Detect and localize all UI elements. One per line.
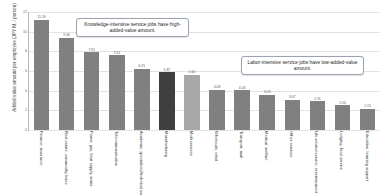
bar-value-label: 5.60: [189, 70, 196, 74]
bar-value-label: 11.19: [37, 15, 45, 19]
x-label-slot: Finance, insurance: [28, 131, 53, 195]
x-label-slot: Medical, welfare: [254, 131, 279, 195]
x-label-slot: Education, learning support: [354, 131, 379, 195]
x-label-slot: Power, gas, heat supply, water: [78, 131, 103, 195]
x-label-slot: Other services: [279, 131, 304, 195]
x-axis-category-label: Wholesale, retail: [214, 131, 218, 193]
x-label-slot: Lodging, food service: [329, 131, 354, 195]
x-label-slot: Transport, mail: [229, 131, 254, 195]
x-label-slot: Wholesale, retail: [204, 131, 229, 195]
bar[interactable]: 7.61: [109, 55, 125, 130]
y-axis-tick-label: 8: [25, 49, 27, 53]
bar-slot: 4.08: [205, 12, 230, 130]
bar[interactable]: 11.19: [34, 20, 50, 130]
bar-value-label: 3.07: [289, 95, 296, 99]
bar-value-label: 7.61: [113, 51, 120, 55]
x-label-slot: Academic, specialized/technical services: [128, 131, 153, 195]
x-axis-category-label: Telecommunication: [114, 131, 118, 193]
bar-value-label: 6.25: [139, 64, 146, 68]
x-label-slot: Manufacturing: [153, 131, 178, 195]
x-axis-category-label: Academic, specialized/technical services: [139, 131, 143, 193]
bar[interactable]: 9.40: [59, 38, 75, 130]
bar-value-label: 7.91: [88, 48, 95, 52]
bar-value-label: 4.08: [214, 85, 221, 89]
bar[interactable]: 6.25: [134, 69, 150, 130]
bar[interactable]: 5.60: [184, 75, 200, 130]
x-label-slot: Multi services: [178, 131, 203, 195]
bar[interactable]: 4.03: [234, 90, 250, 130]
bar[interactable]: 7.91: [84, 52, 100, 130]
y-axis-tick-label: 2: [25, 108, 27, 112]
x-axis-category-label: Education, learning support: [364, 131, 368, 193]
x-axis-category-label: Power, gas, heat supply, water: [88, 131, 92, 193]
bar-value-label: 3.59: [264, 90, 271, 94]
y-axis-tick-label: 4: [25, 89, 27, 93]
bar-slot: 11.19: [29, 12, 54, 130]
bar-value-label: 9.40: [63, 33, 70, 37]
x-axis-category-label: Manufacturing: [164, 131, 168, 193]
y-axis-tick-label: 6: [25, 69, 27, 73]
bar-value-label: 2.50: [339, 101, 346, 105]
x-axis-labels: Finance, insuranceReal estate, commodity…: [28, 131, 379, 195]
bar[interactable]: 3.59: [259, 95, 275, 130]
bar-value-label: 5.87: [164, 68, 171, 72]
x-label-slot: Telecommunication: [103, 131, 128, 195]
bar[interactable]: 5.87: [159, 72, 175, 130]
bar[interactable]: 3.07: [285, 100, 301, 130]
y-axis-title: Added-value amount per employee (JPY M. …: [12, 0, 17, 123]
callout-labor-intensive: Labor-intensive service jobs have low-ad…: [241, 56, 364, 75]
x-axis-category-label: Finance, insurance: [38, 131, 42, 193]
y-axis-tick-label: 10: [23, 30, 27, 34]
y-axis-tick-label: 12: [23, 10, 27, 14]
bar-value-label: 2.15: [364, 104, 371, 108]
x-axis-category-label: Transport, mail: [239, 131, 243, 193]
x-axis-category-label: Life-related service, entertainment: [314, 131, 318, 193]
callout-knowledge-intensive: Knowledge-intensive service jobs have hi…: [76, 18, 189, 37]
bar[interactable]: 2.50: [335, 105, 351, 130]
x-axis-category-label: Real estate, commodity lease: [63, 131, 67, 193]
bar-value-label: 2.91: [314, 97, 321, 101]
bar[interactable]: 2.91: [310, 101, 326, 130]
x-axis-category-label: Other services: [289, 131, 293, 193]
bar[interactable]: 2.15: [360, 109, 376, 130]
x-label-slot: Real estate, commodity lease: [53, 131, 78, 195]
x-axis-category-label: Lodging, food service: [339, 131, 343, 193]
bar[interactable]: 4.08: [209, 90, 225, 130]
x-label-slot: Life-related service, entertainment: [304, 131, 329, 195]
bar-chart: Added-value amount per employee (JPY M. …: [0, 0, 383, 195]
x-axis-category-label: Medical, welfare: [264, 131, 268, 193]
bar-value-label: 4.03: [239, 86, 246, 90]
y-axis-tick-label: 0: [25, 128, 27, 132]
x-axis-category-label: Multi services: [189, 131, 193, 193]
